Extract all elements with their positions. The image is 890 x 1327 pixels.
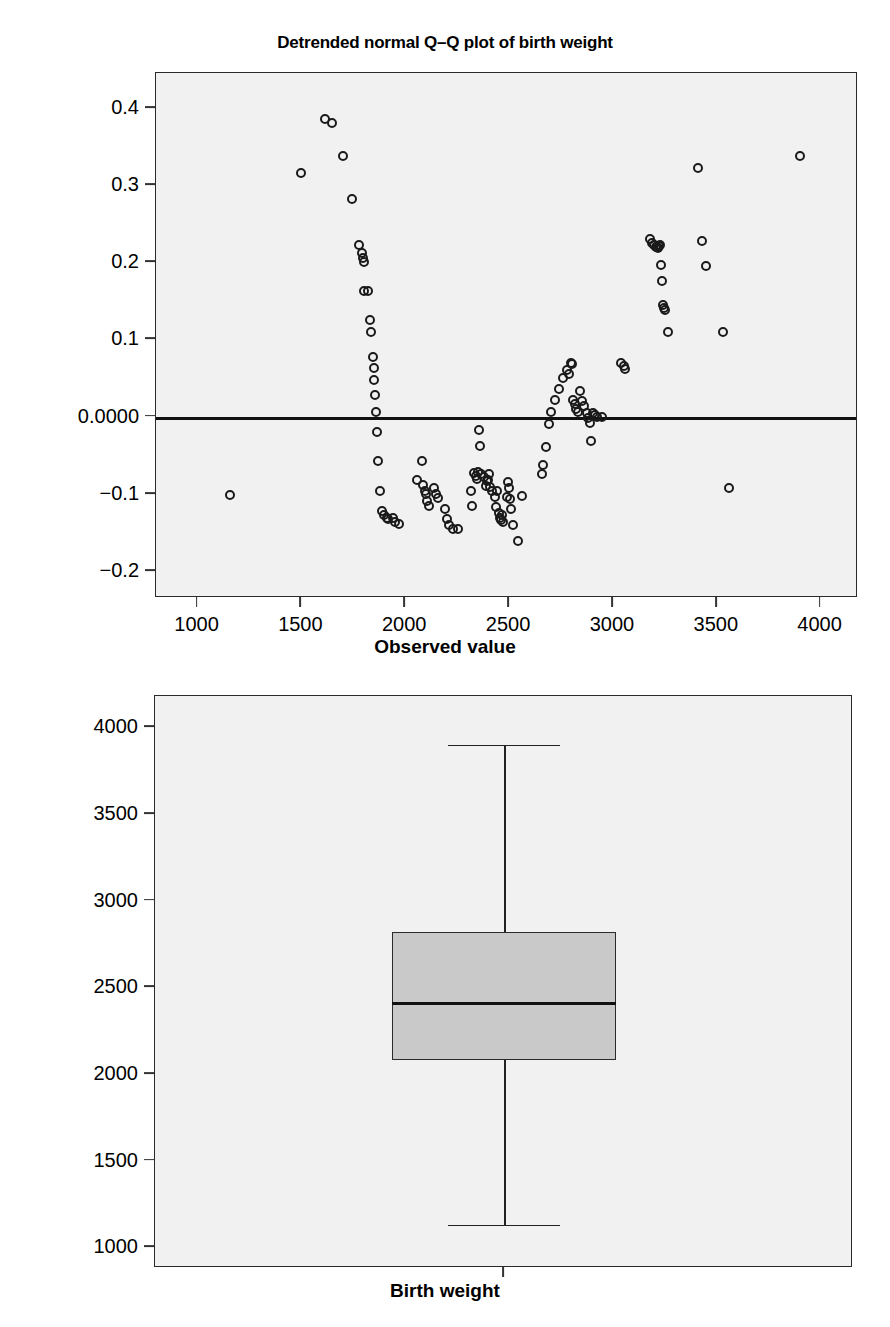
boxplot-y-tickmark	[144, 725, 154, 727]
boxplot-y-ticklabel: 1000	[94, 1235, 139, 1258]
boxplot-lower-cap	[448, 1225, 560, 1227]
boxplot-y-ticklabel: 4000	[94, 715, 139, 738]
figure-canvas: Detrended normal Q–Q plot of birth weigh…	[0, 0, 890, 1327]
boxplot-y-tickmark	[144, 1245, 154, 1247]
boxplot-y-ticklabel: 3000	[94, 888, 139, 911]
boxplot-lower-whisker	[504, 1060, 506, 1225]
boxplot-y-tickmark	[144, 1159, 154, 1161]
boxplot-y-tickmark	[144, 899, 154, 901]
boxplot-x-axis-title: Birth weight	[0, 1280, 890, 1302]
boxplot-y-ticklabel: 1500	[94, 1148, 139, 1171]
boxplot-y-ticklabel: 3500	[94, 801, 139, 824]
boxplot-plot-area	[154, 695, 852, 1267]
boxplot-y-ticklabel: 2500	[94, 975, 139, 998]
boxplot-median-line	[392, 1002, 616, 1005]
boxplot-panel: 4000350030002500200015001000 Birth weigh…	[0, 0, 890, 1327]
boxplot-category-tickmark	[502, 1267, 504, 1277]
boxplot-y-tickmark	[144, 1072, 154, 1074]
boxplot-y-tickmark	[144, 812, 154, 814]
boxplot-iqr-box	[392, 932, 616, 1060]
boxplot-upper-whisker	[504, 745, 506, 932]
boxplot-upper-cap	[448, 745, 560, 747]
boxplot-y-tickmark	[144, 985, 154, 987]
boxplot-y-ticklabel: 2000	[94, 1061, 139, 1084]
